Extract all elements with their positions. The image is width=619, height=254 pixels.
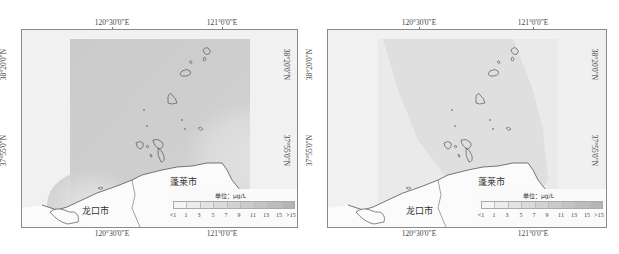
legend: 单位：μg/L <1 1 3 5 7 9 11 13 15 >15 [167,189,297,227]
legend-label: 1 [185,212,188,218]
legend-label: <1 [170,212,176,218]
legend-unit-title: 单位：μg/L [523,191,554,200]
legend-label: 13 [571,212,577,218]
legend-label: 7 [225,212,228,218]
bottom-longitude-tick-2: 121°0'0"E [518,229,549,238]
right-latitude-tick-1: 38°20'0"N [590,49,599,81]
place-label-penglai: 蓬莱市 [478,175,505,188]
bottom-longitude-tick-1: 120°30'0"E [95,229,130,238]
place-label-penglai: 蓬莱市 [170,175,197,188]
legend-label: 15 [584,212,590,218]
right-latitude-tick-2: 37°55'0"N [590,135,599,167]
legend-label: 13 [263,212,269,218]
legend-label: 3 [506,212,509,218]
legend-label: 7 [533,212,536,218]
place-label-longkou: 龙口市 [406,204,433,217]
legend-label: >15 [594,212,603,218]
legend-label: 3 [198,212,201,218]
top-longitude-tick-2: 121°0'0"E [518,18,549,27]
left-latitude-tick-1: 38°20'0"N [305,49,314,81]
legend-label: 9 [546,212,549,218]
left-latitude-tick-2: 37°55'0"N [0,135,8,167]
left-latitude-tick-2: 37°55'0"N [305,135,314,167]
legend-label: 11 [558,212,564,218]
legend-color-bar [481,201,603,209]
top-longitude-tick-1: 120°30'0"E [95,18,130,27]
legend-label: 11 [250,212,256,218]
left-latitude-tick-1: 38°20'0"N [0,49,8,81]
bottom-longitude-tick-2: 121°0'0"E [207,229,238,238]
legend-label: <1 [478,212,484,218]
top-longitude-tick-1: 120°30'0"E [402,18,437,27]
legend-label: 9 [238,212,241,218]
legend-label: 1 [493,212,496,218]
right-latitude-tick-2: 37°55'0"N [282,135,291,167]
place-label-longkou: 龙口市 [82,204,109,217]
right-latitude-tick-1: 38°20'0"N [282,49,291,81]
legend: 单位：μg/L <1 1 3 5 7 9 11 13 15 >15 [475,189,606,227]
legend-label: 5 [520,212,523,218]
legend-label: >15 [286,212,295,218]
legend-unit-title: 单位：μg/L [215,191,246,200]
legend-color-bar [173,201,295,209]
map-panel-left: 120°30'0"E 121°0'0"E [0,0,309,254]
top-longitude-tick-2: 121°0'0"E [207,18,238,27]
bottom-longitude-tick-1: 120°30'0"E [402,229,437,238]
map-frame: 龙口市 蓬莱市 单位：μg/L <1 1 3 5 7 9 11 13 15 >1… [21,29,298,228]
legend-label: 15 [276,212,282,218]
map-frame: 龙口市 蓬莱市 单位：μg/L <1 1 3 5 7 9 11 13 15 >1… [327,29,607,228]
map-panel-right: 120°30'0"E 121°0'0"E [310,0,619,254]
legend-label: 5 [212,212,215,218]
